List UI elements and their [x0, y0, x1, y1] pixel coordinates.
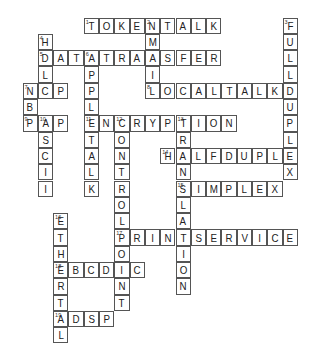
crossword-cell[interactable]: R	[53, 278, 68, 294]
crossword-cell[interactable]: T	[68, 50, 83, 66]
crossword-cell[interactable]: F	[176, 50, 191, 66]
crossword-cell[interactable]: T	[84, 132, 99, 148]
crossword-cell[interactable]: C	[267, 229, 282, 245]
crossword-cell[interactable]: X	[283, 164, 298, 180]
crossword-cell[interactable]: K	[84, 181, 99, 197]
crossword-cell[interactable]: L	[283, 66, 298, 82]
crossword-cell[interactable]: I	[191, 115, 206, 131]
crossword-cell[interactable]: C	[38, 148, 53, 164]
crossword-cell[interactable]: P	[283, 115, 298, 131]
crossword-cell[interactable]: I	[114, 262, 129, 278]
crossword-cell[interactable]: S	[84, 311, 99, 327]
crossword-cell[interactable]: 16E	[53, 213, 68, 229]
crossword-cell[interactable]: I	[145, 229, 160, 245]
crossword-cell[interactable]: E	[130, 18, 145, 34]
crossword-cell[interactable]: U	[283, 34, 298, 50]
crossword-cell[interactable]: 3F	[283, 18, 298, 34]
crossword-cell[interactable]: P	[53, 115, 68, 131]
crossword-cell[interactable]: L	[237, 181, 252, 197]
crossword-cell[interactable]: N	[160, 229, 175, 245]
crossword-cell[interactable]: M	[206, 181, 221, 197]
crossword-cell[interactable]: D	[68, 311, 83, 327]
crossword-cell[interactable]: K	[114, 18, 129, 34]
crossword-cell[interactable]: L	[283, 50, 298, 66]
crossword-cell[interactable]: E	[283, 148, 298, 164]
crossword-cell[interactable]: 19A	[53, 311, 68, 327]
crossword-cell[interactable]: A	[176, 18, 191, 34]
crossword-cell[interactable]: 11E	[84, 115, 99, 131]
crossword-cell[interactable]: A	[191, 83, 206, 99]
crossword-cell[interactable]: N	[114, 148, 129, 164]
crossword-cell[interactable]: 8L	[145, 83, 160, 99]
crossword-cell[interactable]: D	[283, 83, 298, 99]
crossword-cell[interactable]: L	[114, 213, 129, 229]
crossword-cell[interactable]: O	[114, 132, 129, 148]
crossword-cell[interactable]: A	[176, 148, 191, 164]
crossword-cell[interactable]: I	[176, 246, 191, 262]
crossword-cell[interactable]: R	[130, 229, 145, 245]
crossword-cell[interactable]: 15S	[176, 181, 191, 197]
crossword-cell[interactable]: L	[38, 66, 53, 82]
crossword-cell[interactable]: R	[130, 115, 145, 131]
crossword-cell[interactable]: O	[206, 115, 221, 131]
crossword-cell[interactable]: 17P	[114, 229, 129, 245]
crossword-cell[interactable]: T	[176, 229, 191, 245]
crossword-cell[interactable]: I	[38, 164, 53, 180]
crossword-cell[interactable]: 18E	[53, 262, 68, 278]
crossword-cell[interactable]: N	[99, 115, 114, 131]
crossword-cell[interactable]: T	[53, 229, 68, 245]
crossword-cell[interactable]: O	[114, 197, 129, 213]
crossword-cell[interactable]: 6A	[84, 50, 99, 66]
crossword-cell[interactable]: S	[38, 132, 53, 148]
crossword-cell[interactable]: M	[145, 34, 160, 50]
crossword-cell[interactable]: O	[176, 262, 191, 278]
crossword-cell[interactable]: 2N	[145, 18, 160, 34]
crossword-cell[interactable]: O	[99, 18, 114, 34]
crossword-cell[interactable]: K	[206, 18, 221, 34]
crossword-cell[interactable]: P	[84, 83, 99, 99]
crossword-cell[interactable]: A	[237, 83, 252, 99]
crossword-cell[interactable]: L	[84, 164, 99, 180]
crossword-cell[interactable]: A	[53, 50, 68, 66]
crossword-cell[interactable]: L	[191, 148, 206, 164]
crossword-cell[interactable]: D	[221, 148, 236, 164]
crossword-cell[interactable]: P	[53, 83, 68, 99]
crossword-cell[interactable]: 9P	[23, 115, 38, 131]
crossword-cell[interactable]: N	[221, 115, 236, 131]
crossword-cell[interactable]: R	[221, 229, 236, 245]
crossword-cell[interactable]: Y	[145, 115, 160, 131]
crossword-cell[interactable]: E	[206, 229, 221, 245]
crossword-cell[interactable]: P	[160, 115, 175, 131]
crossword-cell[interactable]: B	[23, 99, 38, 115]
crossword-cell[interactable]: L	[267, 148, 282, 164]
crossword-cell[interactable]: H	[53, 246, 68, 262]
crossword-cell[interactable]: U	[283, 99, 298, 115]
crossword-cell[interactable]: S	[160, 50, 175, 66]
crossword-cell[interactable]: S	[191, 229, 206, 245]
crossword-cell[interactable]: T	[221, 83, 236, 99]
crossword-cell[interactable]: L	[53, 327, 68, 343]
crossword-cell[interactable]: T	[114, 295, 129, 311]
crossword-cell[interactable]: 14H	[160, 148, 175, 164]
crossword-cell[interactable]: A	[84, 148, 99, 164]
crossword-cell[interactable]: D	[99, 262, 114, 278]
crossword-cell[interactable]: T	[114, 164, 129, 180]
crossword-cell[interactable]: L	[84, 99, 99, 115]
crossword-cell[interactable]: N	[114, 278, 129, 294]
crossword-cell[interactable]: 13T	[176, 115, 191, 131]
crossword-cell[interactable]: L	[176, 197, 191, 213]
crossword-cell[interactable]: T	[160, 18, 175, 34]
crossword-cell[interactable]: X	[267, 181, 282, 197]
crossword-cell[interactable]: A	[145, 50, 160, 66]
crossword-cell[interactable]: R	[114, 50, 129, 66]
crossword-cell[interactable]: R	[176, 132, 191, 148]
crossword-cell[interactable]: T	[53, 295, 68, 311]
crossword-cell[interactable]: 10A	[38, 115, 53, 131]
crossword-cell[interactable]: C	[176, 83, 191, 99]
crossword-cell[interactable]: P	[84, 66, 99, 82]
crossword-cell[interactable]: C	[84, 262, 99, 278]
crossword-cell[interactable]: L	[252, 83, 267, 99]
crossword-cell[interactable]: L	[206, 83, 221, 99]
crossword-cell[interactable]: 1T	[84, 18, 99, 34]
crossword-cell[interactable]: P	[99, 311, 114, 327]
